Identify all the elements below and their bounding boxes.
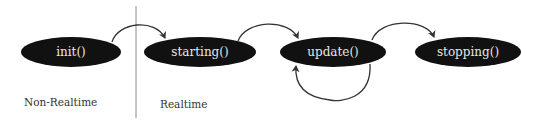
edge-update-self-loop [296,64,370,101]
node-stopping: stopping() [415,37,521,67]
node-init: init() [21,37,121,67]
node-update-label: update() [307,45,359,59]
edge-update-to-stopping [372,23,434,40]
lifecycle-diagram: init() starting() update() stopping() No… [0,0,539,123]
region-label-non-realtime: Non-Realtime [24,96,97,108]
edge-init-to-starting [112,25,165,42]
region-label-realtime: Realtime [160,98,208,110]
node-init-label: init() [56,45,86,59]
node-update: update() [280,37,386,67]
node-stopping-label: stopping() [437,45,499,59]
node-starting: starting() [144,37,256,67]
node-starting-label: starting() [171,45,228,59]
edge-starting-to-update [238,24,298,41]
